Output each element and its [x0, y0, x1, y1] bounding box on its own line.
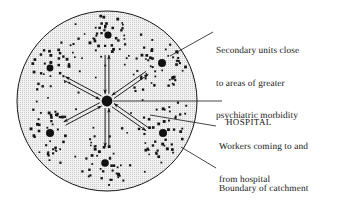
secondary-unit-dot — [44, 63, 46, 65]
secondary-unit-dot — [124, 38, 126, 40]
morbidity-dot — [90, 142, 92, 144]
secondary-unit-dot — [179, 130, 182, 133]
secondary-unit-dot — [102, 16, 105, 19]
secondary-unit-dot — [148, 118, 151, 121]
secondary-unit-dot — [31, 62, 34, 65]
secondary-unit-dot — [95, 49, 97, 51]
secondary-unit-dot — [96, 32, 98, 34]
secondary-unit-dot — [97, 45, 100, 48]
morbidity-dot — [124, 64, 126, 66]
secondary-unit-dot — [102, 170, 104, 172]
morbidity-dot — [130, 112, 132, 114]
secondary-unit-dot — [151, 82, 153, 84]
secondary-unit-dot — [121, 22, 123, 24]
secondary-unit-dot — [34, 58, 37, 61]
morbidity-dot — [122, 180, 124, 182]
boundary-label: Boundary of catchment area — [219, 162, 308, 200]
secondary-unit-core — [47, 65, 54, 72]
secondary-unit-dot — [145, 54, 148, 57]
morbidity-dot — [60, 42, 62, 44]
secondary-unit-dot — [161, 70, 163, 72]
secondary-unit-dot — [111, 27, 114, 30]
secondary-units-label-line-1: Secondary units close — [216, 46, 299, 57]
secondary-unit-dot — [167, 128, 170, 131]
workers-label-line-1: Workers coming to and — [219, 142, 308, 153]
secondary-unit-dot — [49, 140, 51, 142]
morbidity-dot — [133, 74, 135, 76]
morbidity-dot — [90, 145, 92, 147]
morbidity-dot — [36, 88, 38, 90]
secondary-unit-dot — [112, 170, 114, 172]
secondary-unit-dot — [113, 164, 116, 167]
secondary-unit-dot — [98, 27, 101, 30]
secondary-unit-core — [158, 59, 166, 67]
secondary-unit-dot — [175, 63, 178, 66]
secondary-unit-dot — [50, 116, 53, 119]
secondary-unit-dot — [178, 60, 180, 62]
secondary-unit-dot — [56, 150, 58, 152]
secondary-unit-dot — [117, 176, 119, 178]
secondary-unit-dot — [54, 147, 57, 150]
morbidity-dot — [173, 83, 175, 85]
secondary-unit-dot — [55, 114, 58, 117]
secondary-unit-dot — [116, 173, 118, 175]
secondary-unit-dot — [151, 39, 153, 41]
secondary-unit-dot — [168, 120, 170, 122]
secondary-unit-dot — [143, 133, 145, 135]
secondary-unit-dot — [143, 47, 145, 49]
morbidity-dot — [128, 55, 130, 57]
secondary-unit-dot — [30, 127, 33, 130]
secondary-unit-dot — [116, 18, 119, 21]
secondary-unit-dot — [88, 169, 90, 171]
secondary-unit-dot — [167, 84, 169, 86]
secondary-unit-dot — [165, 49, 167, 51]
secondary-unit-dot — [157, 123, 160, 126]
secondary-units-label-line-2: to areas of greater — [216, 79, 299, 90]
secondary-unit-dot — [98, 150, 101, 153]
secondary-unit-dot — [172, 56, 174, 58]
secondary-unit-dot — [115, 37, 118, 40]
secondary-unit-dot — [104, 26, 106, 28]
secondary-unit-dot — [155, 152, 157, 154]
secondary-unit-dot — [145, 73, 147, 75]
secondary-unit-dot — [157, 155, 160, 158]
secondary-unit-dot — [148, 126, 151, 129]
morbidity-dot — [73, 43, 75, 45]
secondary-unit-dot — [136, 70, 138, 72]
morbidity-dot — [108, 184, 110, 186]
secondary-unit-dot — [150, 49, 153, 52]
morbidity-dot — [75, 108, 77, 110]
secondary-unit-dot — [177, 57, 179, 59]
secondary-unit-dot — [95, 35, 97, 37]
morbidity-dot — [75, 23, 77, 25]
leader-boundary — [181, 147, 216, 168]
morbidity-dot — [156, 109, 158, 111]
morbidity-dot — [72, 52, 74, 54]
secondary-unit-dot — [169, 79, 171, 81]
secondary-unit-dot — [38, 118, 40, 120]
secondary-unit-dot — [181, 138, 184, 141]
secondary-unit-dot — [49, 61, 52, 64]
secondary-unit-dot — [47, 154, 49, 156]
secondary-unit-dot — [50, 85, 52, 87]
morbidity-dot — [81, 170, 83, 172]
secondary-unit-dot — [169, 111, 171, 113]
secondary-unit-dot — [161, 143, 164, 146]
morbidity-dot — [145, 78, 147, 80]
secondary-unit-dot — [59, 116, 61, 118]
morbidity-dot — [134, 90, 136, 92]
morbidity-dot — [74, 156, 76, 158]
secondary-unit-dot — [41, 85, 43, 87]
secondary-unit-dot — [49, 54, 52, 57]
secondary-unit-dot — [47, 151, 49, 153]
secondary-unit-dot — [59, 148, 61, 150]
secondary-unit-dot — [151, 57, 153, 59]
secondary-unit-dot — [105, 22, 108, 25]
secondary-unit-dot — [39, 151, 41, 153]
secondary-unit-dot — [154, 70, 156, 72]
morbidity-dot — [59, 162, 61, 164]
secondary-unit-dot — [94, 145, 96, 147]
secondary-unit-dot — [182, 70, 184, 72]
morbidity-dot — [32, 109, 34, 111]
hospital-node — [102, 96, 113, 107]
